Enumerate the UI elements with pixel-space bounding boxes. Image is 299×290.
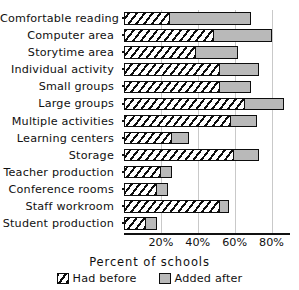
bar-segment-had-before	[124, 132, 172, 144]
chart-legend: Had before Added after	[0, 272, 299, 285]
bar-segment-added-after	[219, 63, 259, 75]
category-tick-mark	[122, 205, 125, 207]
category-label: Computer area	[0, 27, 119, 44]
bar-row	[124, 164, 290, 181]
bar-row	[124, 61, 290, 78]
category-label: Teacher production	[0, 164, 119, 181]
category-axis-labels: Comfortable readingComputer areaStorytim…	[0, 10, 119, 232]
bar-segment-had-before	[124, 149, 235, 161]
category-label: Multiple activities	[0, 113, 119, 130]
legend-swatch-hatched-icon	[57, 273, 69, 284]
legend-item-had-before: Had before	[57, 272, 137, 285]
bar-segment-had-before	[124, 81, 220, 93]
bar-segment-added-after	[169, 12, 251, 24]
x-tick-labels: 20%40%60%80%	[124, 236, 294, 250]
legend-swatch-gray-icon	[159, 273, 171, 284]
category-tick-mark	[122, 34, 125, 36]
bar-row	[124, 181, 290, 198]
category-label: Storytime area	[0, 44, 119, 61]
bar-segment-had-before	[124, 183, 157, 195]
bar-segment-had-before	[124, 63, 220, 75]
x-axis-title: Percent of schools	[0, 255, 299, 269]
bar-segment-added-after	[171, 132, 189, 144]
category-tick-mark	[122, 85, 125, 87]
category-label: Comfortable reading	[0, 10, 119, 27]
x-axis-line	[124, 233, 290, 235]
legend-label-had-before: Had before	[73, 272, 137, 285]
bar-segment-added-after	[219, 200, 230, 212]
x-tick-label: 80%	[259, 236, 284, 249]
bar-segment-had-before	[124, 166, 161, 178]
bar-segment-added-after	[244, 98, 284, 110]
bar-segment-added-after	[233, 149, 258, 161]
category-tick-mark	[122, 188, 125, 190]
bar-segment-added-after	[156, 183, 168, 195]
bar-segment-added-after	[195, 46, 239, 58]
bar-row	[124, 198, 290, 215]
bar-segment-added-after	[160, 166, 172, 178]
plot-area	[124, 10, 290, 233]
bar-segment-had-before	[124, 217, 146, 229]
bar-row	[124, 96, 290, 113]
bar-segment-added-after	[145, 217, 157, 229]
bar-segment-had-before	[124, 200, 220, 212]
category-label: Storage	[0, 147, 119, 164]
category-label: Staff workroom	[0, 198, 119, 215]
bar-segment-had-before	[124, 46, 196, 58]
bar-segment-had-before	[124, 29, 214, 41]
category-tick-mark	[122, 171, 125, 173]
category-tick-mark	[122, 154, 125, 156]
category-label: Individual activity	[0, 61, 119, 78]
bar-row	[124, 113, 290, 130]
category-label: Conference rooms	[0, 181, 119, 198]
category-tick-mark	[122, 17, 125, 19]
bar-segment-had-before	[124, 115, 231, 127]
category-tick-mark	[122, 51, 125, 53]
bar-chart: Comfortable readingComputer areaStorytim…	[0, 0, 299, 290]
category-label: Large groups	[0, 95, 119, 112]
category-tick-mark	[122, 137, 125, 139]
x-tick-label: 40%	[185, 236, 210, 249]
category-tick-mark	[122, 103, 125, 105]
bar-row	[124, 130, 290, 147]
bar-row	[124, 44, 290, 61]
category-tick-mark	[122, 222, 125, 224]
category-tick-mark	[122, 120, 125, 122]
category-label: Student production	[0, 215, 119, 232]
category-tick-mark	[122, 68, 125, 70]
bar-row	[124, 10, 290, 27]
bar-row	[124, 215, 290, 232]
bar-row	[124, 147, 290, 164]
category-label: Small groups	[0, 78, 119, 95]
legend-item-added-after: Added after	[159, 272, 243, 285]
bar-segment-added-after	[219, 81, 252, 93]
x-tick-label: 20%	[148, 236, 173, 249]
bar-segment-had-before	[124, 12, 170, 24]
bar-row	[124, 27, 290, 44]
bar-row	[124, 78, 290, 95]
bar-segment-added-after	[213, 29, 271, 41]
legend-label-added-after: Added after	[175, 272, 243, 285]
bar-segment-had-before	[124, 98, 246, 110]
bar-segment-added-after	[230, 115, 257, 127]
category-label: Learning centers	[0, 130, 119, 147]
x-tick-label: 60%	[222, 236, 247, 249]
